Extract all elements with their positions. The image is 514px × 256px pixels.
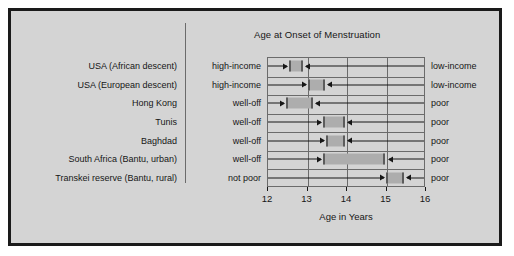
arrow-right-7	[407, 177, 424, 178]
range-bar-2	[308, 79, 325, 90]
row-label-1: USA (African descent)	[19, 61, 177, 71]
right-group-label-1: low-income	[431, 61, 501, 71]
left-group-label-7: not poor	[189, 173, 261, 183]
arrow-left-6	[268, 159, 321, 160]
gridline-horizontal	[268, 132, 424, 133]
x-axis-title: Age in Years	[319, 211, 372, 222]
x-tick-label: 14	[341, 193, 352, 204]
range-bar-6	[323, 154, 385, 165]
x-tick	[346, 187, 347, 191]
right-group-label-6: poor	[431, 154, 501, 164]
row-label-2: USA (European descent)	[19, 80, 177, 90]
x-tick-label: 13	[301, 193, 312, 204]
left-group-label-4: well-off	[189, 117, 261, 127]
right-group-label-4: poor	[431, 117, 501, 127]
left-group-label-1: high-income	[189, 61, 261, 71]
arrow-left-2	[268, 84, 306, 85]
gridline-horizontal	[268, 77, 424, 78]
gridline-horizontal	[268, 151, 424, 152]
gridline-horizontal	[268, 95, 424, 96]
arrow-right-1	[306, 66, 424, 67]
gridline-horizontal	[268, 114, 424, 115]
row-label-4: Tunis	[19, 117, 177, 127]
chart-title: Age at Onset of Menstruation	[254, 29, 380, 40]
row-label-5: Baghdad	[19, 136, 177, 146]
range-bar-7	[386, 172, 404, 183]
row-label-7: Transkei reserve (Bantu, rural)	[19, 173, 177, 183]
x-tick	[425, 187, 426, 191]
arrow-left-1	[268, 66, 287, 67]
range-bar-1	[289, 61, 304, 72]
x-tick-label: 12	[262, 193, 273, 204]
range-bar-5	[326, 135, 345, 146]
right-group-label-3: poor	[431, 98, 501, 108]
label-column-separator	[185, 23, 186, 183]
arrow-right-4	[348, 122, 424, 123]
range-bar-3	[286, 98, 313, 109]
range-bar-4	[323, 117, 345, 128]
left-group-label-6: well-off	[189, 154, 261, 164]
arrow-right-3	[316, 103, 424, 104]
x-tick-label: 16	[420, 193, 431, 204]
arrow-left-3	[268, 103, 284, 104]
arrow-left-5	[268, 140, 324, 141]
arrow-right-5	[348, 140, 424, 141]
left-group-label-5: well-off	[189, 136, 261, 146]
arrow-right-2	[328, 84, 424, 85]
x-tick-label: 15	[380, 193, 391, 204]
left-group-label-2: high-income	[189, 80, 261, 90]
right-group-label-2: low-income	[431, 80, 501, 90]
arrow-left-4	[268, 122, 321, 123]
left-group-label-3: well-off	[189, 98, 261, 108]
chart-inner: Age at Onset of Menstruation USA (Africa…	[11, 11, 499, 243]
chart-figure: Age at Onset of Menstruation USA (Africa…	[8, 8, 502, 246]
right-group-label-7: poor	[431, 173, 501, 183]
x-tick	[307, 187, 308, 191]
gridline-horizontal	[268, 169, 424, 170]
x-tick	[267, 187, 268, 191]
row-label-6: South Africa (Bantu, urban)	[19, 154, 177, 164]
arrow-right-6	[389, 159, 425, 160]
arrow-left-7	[268, 177, 384, 178]
right-group-label-5: poor	[431, 136, 501, 146]
x-tick	[386, 187, 387, 191]
row-label-3: Hong Kong	[19, 98, 177, 108]
